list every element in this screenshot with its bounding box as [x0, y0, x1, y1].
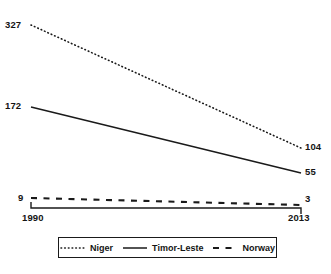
- value-label-timor-leste-end: 55: [305, 167, 316, 177]
- legend-item-timor-leste: Timor-Leste: [122, 243, 203, 253]
- legend-swatch-solid-icon: [122, 244, 148, 252]
- value-label-norway-start: 9: [18, 193, 23, 203]
- chart-plot-area: [0, 0, 331, 274]
- legend-label-norway: Norway: [242, 243, 275, 253]
- legend-swatch-dotted-icon: [60, 244, 86, 252]
- chart-legend: Niger Timor-Leste Norway: [58, 237, 277, 258]
- value-label-niger-end: 104: [305, 142, 321, 152]
- legend-label-timor-leste: Timor-Leste: [152, 243, 203, 253]
- value-label-norway-end: 3: [305, 194, 310, 204]
- series-line-niger: [31, 25, 301, 148]
- legend-label-niger: Niger: [90, 243, 113, 253]
- legend-item-norway: Norway: [212, 243, 275, 253]
- series-line-norway: [31, 198, 301, 205]
- x-axis-tick-label-end: 2013: [288, 213, 310, 223]
- x-axis-tick-label-start: 1990: [22, 213, 44, 223]
- series-line-timor-leste: [31, 107, 301, 173]
- value-label-niger-start: 327: [5, 20, 21, 30]
- value-label-timor-leste-start: 172: [5, 101, 21, 111]
- legend-item-niger: Niger: [60, 243, 113, 253]
- chart-container: 327 172 9 104 55 3 1990 2013 Niger Timor…: [0, 0, 331, 274]
- legend-swatch-dashed-icon: [212, 244, 238, 252]
